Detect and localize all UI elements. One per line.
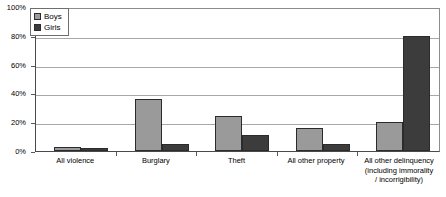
x-axis: All violence Burglary Theft All other pr… xyxy=(35,156,440,197)
legend-item-boys[interactable]: Boys xyxy=(34,11,62,22)
y-tick-label: 20% xyxy=(11,119,26,127)
y-tick-label: 100% xyxy=(7,4,26,12)
bar-girls[interactable] xyxy=(323,144,350,151)
x-tick-label: All other property xyxy=(272,156,360,166)
bar-girls[interactable] xyxy=(81,148,108,151)
legend-swatch-icon xyxy=(34,24,41,31)
legend-label: Girls xyxy=(44,24,60,32)
bar-group xyxy=(278,9,359,151)
bar-group xyxy=(358,9,439,151)
bar-girls[interactable] xyxy=(242,135,269,151)
y-tick-label: 60% xyxy=(11,62,26,70)
bars-layer xyxy=(36,9,439,151)
legend-swatch-icon xyxy=(34,13,41,20)
bar-boys[interactable] xyxy=(135,99,162,151)
legend-item-girls[interactable]: Girls xyxy=(34,22,62,33)
bar-girls[interactable] xyxy=(403,36,430,151)
y-tick-label: 40% xyxy=(11,91,26,99)
bar-boys[interactable] xyxy=(54,147,81,151)
y-tick-mark xyxy=(31,152,35,153)
bar-girls[interactable] xyxy=(162,144,189,151)
x-tick-label: All violence xyxy=(35,156,116,166)
legend: Boys Girls xyxy=(30,8,69,36)
bar-chart: 100% 80% 60% 40% 20% 0% xyxy=(0,0,446,197)
bar-group xyxy=(117,9,198,151)
y-tick-label: 0% xyxy=(15,148,26,156)
x-tick-label: Theft xyxy=(196,156,277,166)
bar-group xyxy=(197,9,278,151)
x-tick-label: Burglary xyxy=(116,156,197,166)
y-tick-label: 80% xyxy=(11,33,26,41)
x-tick-label: All other delinquency (including immoral… xyxy=(353,156,445,185)
bar-boys[interactable] xyxy=(215,116,242,151)
legend-label: Boys xyxy=(44,13,62,21)
y-axis: 100% 80% 60% 40% 20% 0% xyxy=(0,0,30,160)
bar-boys[interactable] xyxy=(296,128,323,151)
plot-area xyxy=(35,8,440,152)
bar-boys[interactable] xyxy=(376,122,403,151)
